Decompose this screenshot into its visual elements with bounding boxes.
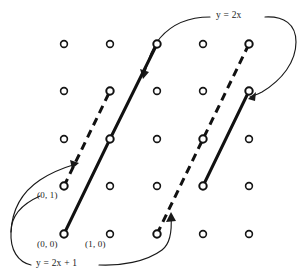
lattice-dot bbox=[246, 231, 253, 238]
lattice-dot bbox=[246, 183, 253, 190]
leader-arrowhead-y2x1-right bbox=[166, 212, 176, 222]
lattice-dot bbox=[154, 88, 161, 95]
lattice-dot bbox=[200, 88, 207, 95]
endpoint-dot-1-3 bbox=[106, 87, 113, 94]
endpoint-dot-3-2-solid bbox=[199, 182, 206, 189]
lattice-dot bbox=[61, 88, 68, 95]
solid-segment-right bbox=[203, 91, 249, 186]
leader-curve-y2x-right bbox=[250, 17, 296, 97]
lattice-diagram-svg bbox=[0, 0, 303, 276]
lattice-dot bbox=[61, 41, 68, 48]
leader-curve-y2x1-right bbox=[99, 216, 171, 265]
lattice-dot-grid bbox=[61, 41, 253, 238]
label-point-0-0: (0, 0) bbox=[37, 240, 58, 249]
lattice-dot bbox=[107, 231, 114, 238]
lattice-dot bbox=[200, 231, 207, 238]
endpoint-dot-3-2-dashed bbox=[199, 135, 206, 142]
lattice-dot bbox=[246, 136, 253, 143]
label-line-solid-equation: y = 2x bbox=[216, 11, 242, 21]
endpoint-dot-2-0 bbox=[153, 230, 160, 237]
lattice-dot bbox=[154, 183, 161, 190]
lattice-dot bbox=[154, 136, 161, 143]
lattice-dot bbox=[200, 41, 207, 48]
endpoint-dot-1-2 bbox=[106, 135, 113, 142]
figure-container: y = 2x y = 2x + 1 (0, 1) (0, 0) (1, 0) bbox=[0, 0, 303, 276]
label-point-0-1: (0, 1) bbox=[37, 191, 58, 200]
label-point-1-0: (1, 0) bbox=[85, 240, 106, 249]
endpoint-dot-0-1 bbox=[60, 182, 67, 189]
leader-curve-point-0-1 bbox=[11, 196, 40, 232]
lattice-dot bbox=[107, 183, 114, 190]
dashed-segment-left bbox=[64, 91, 110, 186]
label-line-dashed-equation: y = 2x + 1 bbox=[36, 259, 77, 269]
endpoint-dot-4-4-solid bbox=[245, 87, 252, 94]
endpoint-dot-4-4-dashed bbox=[245, 40, 252, 47]
lattice-dot bbox=[107, 41, 114, 48]
lattice-dot bbox=[61, 136, 68, 143]
endpoint-dot-origin bbox=[60, 230, 67, 237]
endpoint-dot-2-4 bbox=[153, 40, 160, 47]
